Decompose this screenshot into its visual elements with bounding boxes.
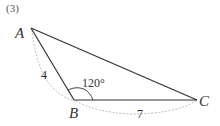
- side-ab: [31, 28, 74, 100]
- side-ac: [31, 28, 197, 100]
- side-bc-length-arc: [76, 101, 196, 114]
- problem-number: (3): [6, 2, 19, 15]
- vertex-label-a: A: [14, 25, 25, 41]
- side-bc-length-label: 7: [137, 107, 143, 121]
- vertex-label-c: C: [199, 93, 210, 109]
- vertex-label-b: B: [69, 105, 78, 121]
- triangle-diagram: (3) A B C 4 7 120°: [0, 0, 220, 126]
- side-ab-length-label: 4: [41, 68, 47, 82]
- angle-b-label: 120°: [82, 76, 105, 90]
